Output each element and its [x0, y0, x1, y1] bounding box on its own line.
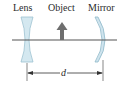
arrowhead-right-icon — [97, 71, 103, 75]
arrowhead-left-icon — [27, 71, 33, 75]
mirror-label: Mirror — [88, 3, 115, 13]
object-label: Object — [48, 3, 75, 13]
lens-label: Lens — [13, 3, 32, 13]
optics-diagram: Lens Object Mirror d — [0, 0, 122, 89]
distance-label: d — [60, 68, 67, 78]
object-arrow-icon — [57, 22, 68, 40]
